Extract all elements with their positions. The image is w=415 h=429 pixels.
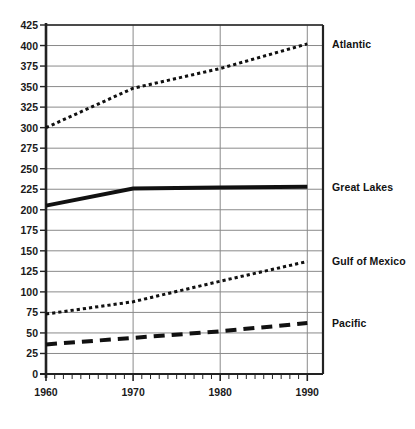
series-label-great-lakes: Great Lakes <box>332 182 393 193</box>
series-label-group: AtlanticGreat LakesGulf of MexicoPacific <box>0 0 415 429</box>
series-label-gulf-of-mexico: Gulf of Mexico <box>332 256 406 267</box>
series-label-atlantic: Atlantic <box>332 39 371 50</box>
chart-container: 0255075100125150175200225250275300325350… <box>0 0 415 429</box>
series-label-pacific: Pacific <box>332 318 367 329</box>
